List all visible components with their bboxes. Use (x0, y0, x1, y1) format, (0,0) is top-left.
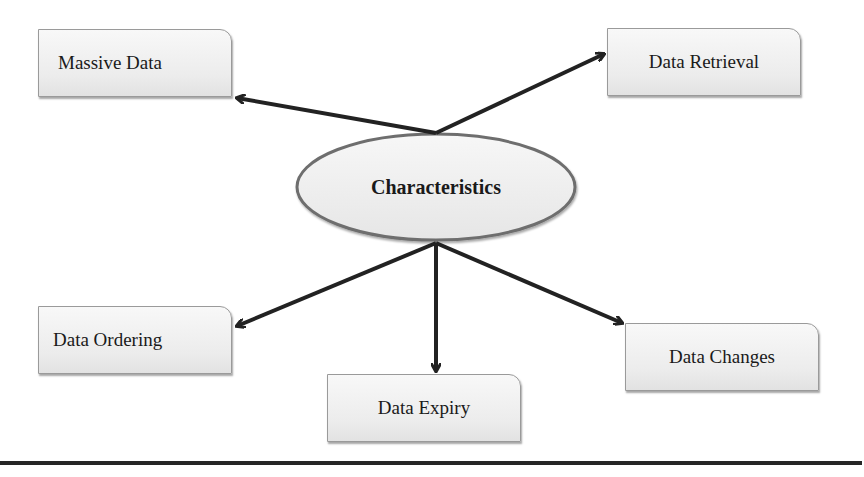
center-node-text: Characteristics (371, 176, 501, 199)
node-massive-data: Massive Data (38, 29, 232, 97)
node-label: Data Retrieval (649, 51, 759, 73)
node-label: Data Changes (669, 346, 775, 368)
arrow-to-massive-data (237, 98, 436, 133)
arrow-to-data-ordering (237, 243, 436, 326)
diagram-canvas: Characteristics Massive Data Data Retrie… (0, 0, 864, 477)
center-node-label: Characteristics (296, 134, 576, 240)
bottom-divider (0, 461, 862, 465)
node-data-retrieval: Data Retrieval (607, 28, 801, 96)
arrow-to-data-changes (436, 243, 622, 323)
node-data-expiry: Data Expiry (327, 374, 521, 442)
node-data-ordering: Data Ordering (38, 306, 232, 374)
node-label: Massive Data (58, 52, 162, 74)
arrow-to-data-retrieval (436, 54, 604, 133)
node-label: Data Ordering (53, 329, 162, 351)
node-data-changes: Data Changes (625, 323, 819, 391)
node-label: Data Expiry (378, 397, 470, 419)
